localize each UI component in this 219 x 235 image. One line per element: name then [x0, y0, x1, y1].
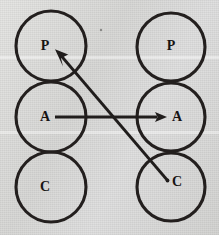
label-left-p: P	[41, 38, 50, 53]
label-right-c: C	[172, 174, 182, 189]
label-right-a: A	[172, 109, 183, 124]
paper-speck	[100, 29, 102, 31]
figure-canvas: P A C P A C	[0, 0, 219, 235]
node-right-c[interactable]: C	[137, 153, 205, 221]
node-right-p[interactable]: P	[137, 13, 205, 81]
label-left-c: C	[40, 179, 50, 194]
diagram-svg: P A C P A C	[0, 0, 219, 235]
circle-left-c[interactable]	[16, 152, 86, 222]
label-left-a: A	[40, 109, 51, 124]
label-right-p: P	[167, 38, 176, 53]
node-left-c[interactable]: C	[16, 152, 86, 222]
